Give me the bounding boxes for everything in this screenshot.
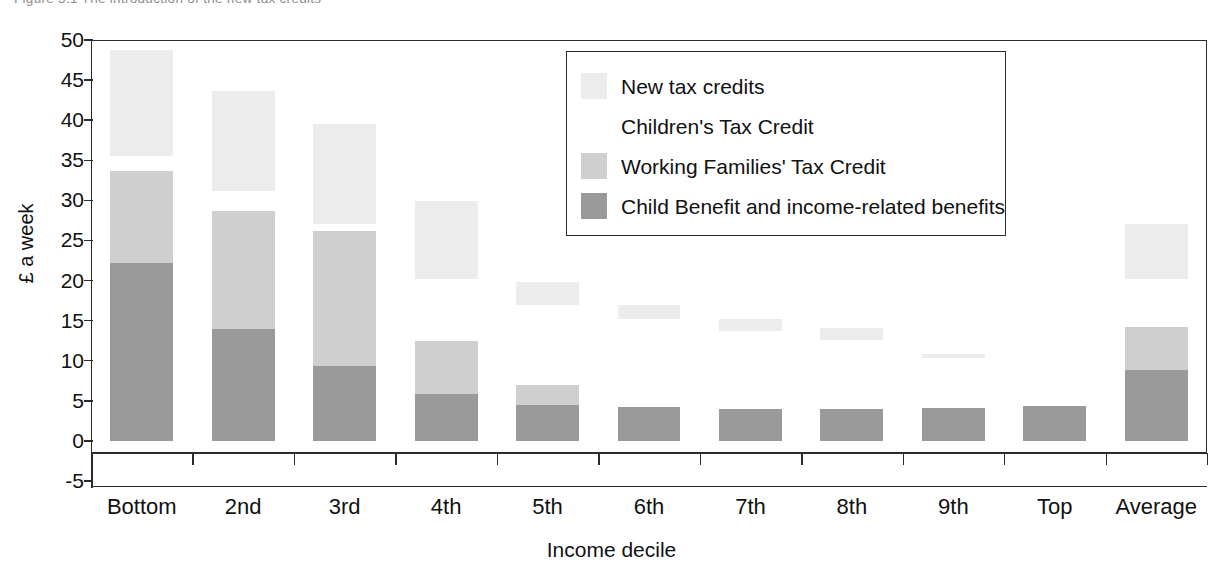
y-axis-tick-mark [84,360,93,362]
bar-segment [618,407,681,441]
x-axis-tick-mark [192,453,193,465]
y-axis-tick-label: 50 [0,29,84,50]
y-axis-tick-mark [84,119,93,121]
y-axis-tick-mark [84,320,93,322]
bar-segment [1125,370,1188,441]
bar-segment [516,305,579,385]
bar-segment [313,224,376,230]
legend-swatch [581,153,607,179]
bar-segment [415,341,478,394]
bar-segment [820,328,883,340]
y-axis-tick-label: 35 [0,149,84,170]
bar-segment [922,358,985,408]
x-axis-tick-mark [598,453,599,465]
bar-segment [922,354,985,359]
bar-segment [212,191,275,211]
x-axis-tick-label: 5th [497,496,598,518]
x-axis-tick-mark [91,453,92,465]
legend-label: Children's Tax Credit [621,116,814,137]
y-axis-tick-mark [84,39,93,41]
x-axis-tick-label: 8th [801,496,902,518]
bar-segment [719,409,782,441]
bar-segment [719,319,782,331]
bar-segment [415,279,478,342]
x-axis-tick-mark [1106,453,1107,465]
bar-segment [212,211,275,330]
zero-baseline [91,452,1207,454]
x-axis-tick-label: 3rd [294,496,395,518]
bar-segment [415,201,478,279]
legend-item: Working Families' Tax Credit [567,146,1005,186]
y-axis-tick-label: 0 [0,430,84,451]
bar-segment [212,91,275,190]
legend-item: Children's Tax Credit [567,106,1005,146]
x-axis-tick-mark [1004,453,1005,465]
legend-swatch [581,193,607,219]
bar-segment [1125,224,1188,279]
x-axis-tick-label: 9th [903,496,1004,518]
bar-segment [415,394,478,441]
y-axis-tick-label: 5 [0,390,84,411]
legend-swatch [581,73,607,99]
x-axis-tick-label: 2nd [192,496,293,518]
x-axis-tick-mark [903,453,904,465]
bar-segment [1125,279,1188,327]
bar-segment [212,329,275,440]
bar-segment [922,408,985,441]
bar-segment [110,263,173,441]
y-axis-title: £ a week [15,184,38,304]
bar-segment [516,405,579,441]
legend-item: New tax credits [567,66,1005,106]
y-axis-tick-mark [84,440,93,442]
y-axis-tick-mark [84,240,93,242]
bar-segment [1125,327,1188,369]
x-axis-title: Income decile [0,538,1223,562]
y-axis-tick-label: 45 [0,69,84,90]
legend-label: Child Benefit and income-related benefit… [621,196,1005,217]
bar-segment [719,331,782,409]
legend-label: Working Families' Tax Credit [621,156,886,177]
y-axis-tick-mark [84,79,93,81]
bar-segment [618,319,681,407]
y-axis-tick-label: 10 [0,350,84,371]
bar-segment [313,231,376,366]
y-axis-tick-label: -5 [0,470,84,491]
x-axis-tick-label: Bottom [91,496,192,518]
x-axis-tick-label: Average [1106,496,1207,518]
legend-label: New tax credits [621,76,765,97]
y-axis-tick-mark [84,200,93,202]
x-axis-tick-label: Top [1004,496,1105,518]
y-axis-tick-mark [84,160,93,162]
y-axis-tick-mark [84,400,93,402]
x-axis-tick-mark [801,453,802,465]
legend-item: Child Benefit and income-related benefit… [567,186,1005,226]
bar-segment [820,340,883,409]
bar-segment [313,124,376,224]
x-axis-tick-mark [395,453,396,465]
y-axis-tick-label: 40 [0,109,84,130]
legend-swatch [581,113,607,139]
x-axis-tick-label: 6th [598,496,699,518]
x-axis-tick-mark [294,453,295,465]
y-axis-tick-mark [84,280,93,282]
x-axis-tick-mark [497,453,498,465]
bar-segment [516,282,579,304]
y-axis-tick-label: 30 [0,189,84,210]
bar-segment [516,385,579,405]
x-axis-tick-label: 4th [395,496,496,518]
bar-segment [110,171,173,263]
bar-segment [110,156,173,170]
x-axis-tick-mark [1207,453,1208,465]
bar-segment [820,409,883,441]
bar-segment [110,50,173,157]
lower-axis-line [91,486,1207,487]
x-axis-tick-mark [700,453,701,465]
bar-segment [1023,406,1086,441]
chart-legend: New tax creditsChildren's Tax CreditWork… [566,51,1006,236]
y-axis-tick-label: 15 [0,310,84,331]
bar-segment [618,305,681,319]
stacked-bar-chart: 50454035302520151050-5 £ a week Bottom2n… [0,0,1223,576]
bar-segment [313,366,376,441]
y-axis-tick-mark [84,480,93,482]
x-axis-tick-label: 7th [700,496,801,518]
